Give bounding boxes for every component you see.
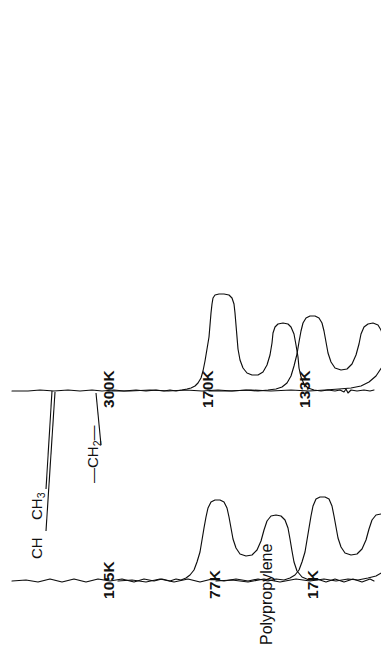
trace-path-17k [216,512,381,582]
figure-canvas: Polypropylene CH CH3 —CH2— 300K [0,0,381,659]
figure-rotator: Polypropylene CH CH3 —CH2— 300K [0,0,381,659]
spectrum-trace-17k [214,471,381,591]
spectrum-trace-133k [207,281,381,401]
trace-path-133k [209,324,381,391]
